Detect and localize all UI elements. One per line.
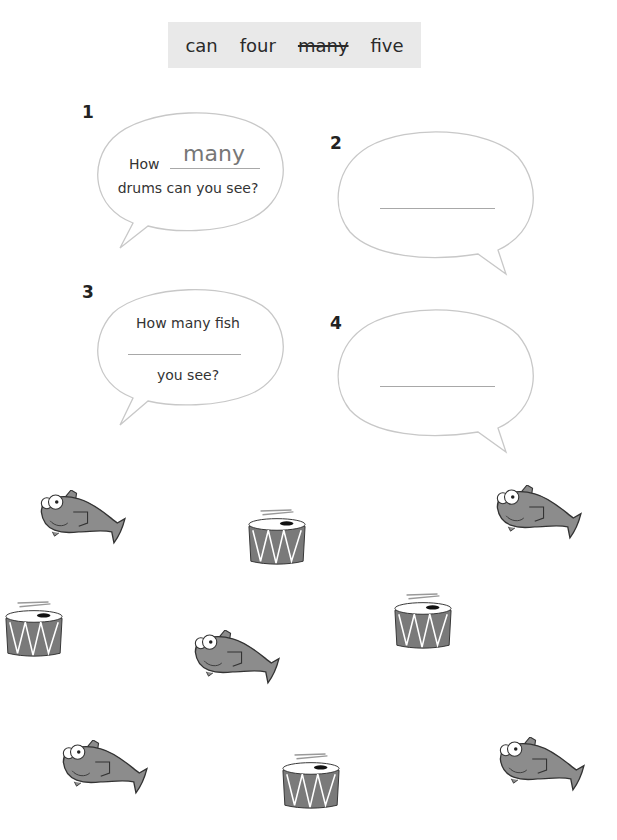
word-bank-word: five: [371, 35, 404, 56]
fish-picture: [493, 737, 588, 792]
drum-picture: [281, 752, 341, 812]
question-text-prefix: How: [129, 156, 160, 172]
answer-line[interactable]: [128, 354, 241, 355]
word-bank-word: can: [185, 35, 217, 56]
answer-line[interactable]: [380, 208, 495, 209]
answer-written: many: [170, 141, 258, 166]
speech-bubble-shape: [338, 310, 538, 460]
fish-picture: [490, 485, 585, 540]
question-text: How many fish: [110, 315, 266, 331]
speech-bubble-shape: [88, 108, 288, 250]
drum-picture: [247, 508, 307, 568]
speech-bubble-shape: [338, 132, 538, 282]
fish-picture: [188, 630, 283, 685]
fish-picture: [34, 490, 129, 545]
answer-line[interactable]: [380, 386, 495, 387]
word-bank-word: four: [240, 35, 276, 56]
fish-picture: [56, 740, 151, 795]
drum-picture: [393, 592, 453, 652]
answer-line[interactable]: [170, 168, 260, 169]
speech-bubble-shape: [88, 285, 288, 427]
drum-picture: [4, 600, 64, 660]
word-bank: can four many five: [168, 22, 421, 68]
question-text: you see?: [110, 367, 266, 383]
word-bank-word-used: many: [298, 35, 349, 56]
question-text: drums can you see?: [110, 180, 266, 196]
